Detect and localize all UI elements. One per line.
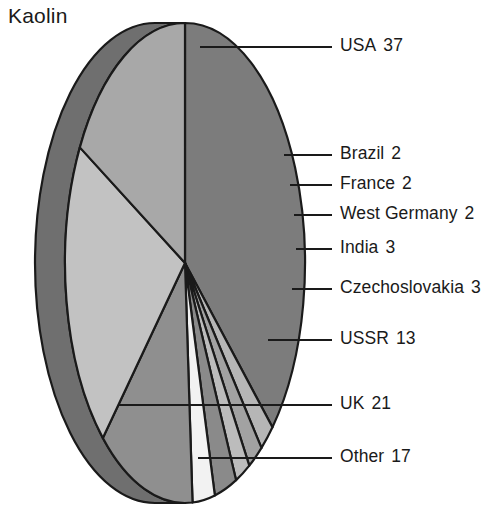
callout-label-france: France2 xyxy=(340,175,412,192)
callout-label-west-germany: West Germany2 xyxy=(340,205,474,222)
pie-chart-svg xyxy=(0,0,502,513)
callout-label-brazil: Brazil2 xyxy=(340,145,401,162)
callout-label-value: 2 xyxy=(402,173,412,193)
callout-label-value: 37 xyxy=(383,35,403,55)
callout-label-usa: USA37 xyxy=(340,37,403,54)
callout-label-name: UK xyxy=(340,393,365,413)
callout-label-value: 17 xyxy=(391,446,411,466)
callout-label-name: France xyxy=(340,173,395,193)
callout-label-name: USA xyxy=(340,35,376,55)
callout-label-name: India xyxy=(340,237,378,257)
callout-label-uk: UK21 xyxy=(340,395,391,412)
pie-slices-group xyxy=(65,23,305,503)
callout-label-value: 21 xyxy=(372,393,392,413)
callout-label-ussr: USSR13 xyxy=(340,330,416,347)
callout-label-other: Other17 xyxy=(340,448,411,465)
callout-label-value: 3 xyxy=(471,277,481,297)
pie-chart-figure: Kaolin USA37Brazil2France2West Germany2I… xyxy=(0,0,502,513)
callout-label-value: 3 xyxy=(385,237,395,257)
callout-label-czechoslovakia: Czechoslovakia3 xyxy=(340,279,481,296)
callout-label-value: 13 xyxy=(396,328,416,348)
callout-label-value: 2 xyxy=(465,203,475,223)
callout-label-name: Brazil xyxy=(340,143,384,163)
callout-label-name: Czechoslovakia xyxy=(340,277,464,297)
callout-label-value: 2 xyxy=(391,143,401,163)
callout-label-name: Other xyxy=(340,446,384,466)
callout-label-name: USSR xyxy=(340,328,389,348)
callout-label-name: West Germany xyxy=(340,203,458,223)
callout-label-india: India3 xyxy=(340,239,395,256)
